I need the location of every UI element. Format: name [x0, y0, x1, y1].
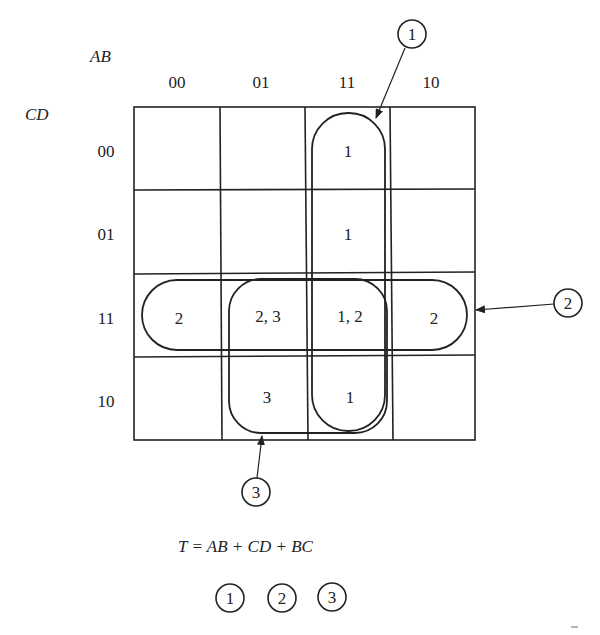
boolean-equation: T = AB + CD + BC	[178, 537, 314, 556]
svg-text:1: 1	[408, 25, 417, 44]
col-header-11: 11	[339, 73, 355, 92]
kmap-grid	[134, 107, 475, 440]
col-header-00: 00	[169, 73, 186, 92]
svg-text:1: 1	[226, 589, 235, 608]
svg-text:2: 2	[564, 294, 573, 313]
svg-text:2: 2	[278, 589, 287, 608]
term-legend: 1 2 3	[216, 583, 346, 612]
group-2-loop	[142, 280, 467, 350]
cell-value: 1	[344, 142, 353, 161]
cell-value: 3	[263, 388, 272, 407]
svg-text:3: 3	[252, 483, 261, 502]
callout-group-3: 3	[242, 436, 270, 506]
cell-value: 1	[344, 225, 353, 244]
row-header-11: 11	[98, 309, 114, 328]
col-header-10: 10	[423, 73, 440, 92]
cell-value: 2	[175, 309, 184, 328]
row-header-01: 01	[98, 225, 115, 244]
ab-variable-label: AB	[89, 47, 111, 66]
callout-arrow-2	[476, 304, 554, 310]
callout-group-1: 1	[376, 20, 426, 118]
row-header-10: 10	[98, 392, 115, 411]
cd-variable-label: CD	[25, 105, 49, 124]
cell-value: 1	[346, 388, 355, 407]
svg-text:3: 3	[328, 588, 337, 607]
cell-value: 2, 3	[255, 307, 281, 326]
callout-arrow-3	[257, 436, 262, 478]
karnaugh-map-diagram: AB CD 00 01 11 10 00 01 11 10 1 1 2 2, 3…	[0, 0, 600, 635]
cell-value: 2	[430, 309, 439, 328]
col-header-01: 01	[253, 73, 270, 92]
callout-group-2: 2	[476, 289, 582, 317]
cell-value: 1, 2	[337, 307, 363, 326]
row-header-00: 00	[98, 142, 115, 161]
